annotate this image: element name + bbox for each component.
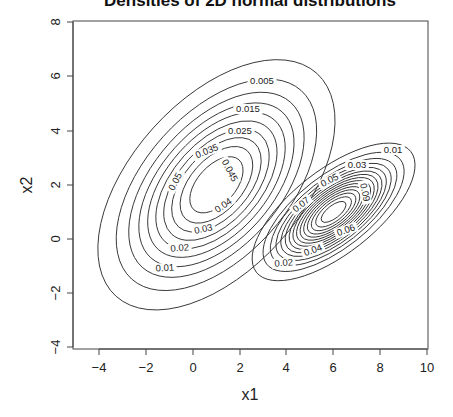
contour-lines: [53, 16, 437, 353]
contour-label: 0.045: [220, 157, 241, 183]
x-tick-label: 10: [420, 360, 434, 375]
contour-label: 0.02: [170, 241, 189, 254]
contour-line: [230, 118, 436, 305]
contour-label: 0.015: [236, 103, 260, 114]
plot-frame: [73, 21, 428, 349]
contour-label: 0.03: [193, 221, 213, 236]
y-axis-title: x2: [18, 176, 35, 193]
y-tick-label: −2: [48, 286, 63, 301]
x-tick-label: 0: [189, 360, 196, 375]
contour-line: [244, 131, 423, 293]
contour-label: 0.06: [335, 221, 356, 238]
chart-title: Densities of 2D normal distributions: [104, 0, 396, 10]
contour-label: 0.04: [302, 241, 323, 258]
x-tick-label: 6: [329, 360, 336, 375]
y-tick-label: 4: [48, 127, 63, 134]
x-tick-label: 2: [236, 360, 243, 375]
contour-line: [144, 110, 289, 260]
contour-label: 0.025: [228, 125, 252, 136]
x-axis-title: x1: [242, 386, 259, 403]
y-tick-label: 8: [48, 18, 63, 25]
y-tick-label: 2: [48, 181, 63, 188]
contour-chart: Densities of 2D normal distributions 0.0…: [0, 0, 453, 417]
x-tick-label: 8: [376, 360, 383, 375]
contour-label: 0.01: [384, 144, 403, 155]
contour-line: [78, 43, 354, 328]
x-tick-label: 4: [282, 360, 289, 375]
y-tick-label: 0: [48, 235, 63, 242]
x-tick-label: −2: [139, 360, 154, 375]
contour-label: 0.01: [155, 262, 174, 274]
y-tick-label: 6: [48, 72, 63, 79]
y-tick-label: −4: [48, 340, 63, 355]
x-tick-label: −4: [92, 360, 107, 375]
contour-line: [95, 60, 337, 309]
x-axis: −4 −2 0 2 4 6 8 10 x1: [92, 349, 435, 403]
contour-label: 0.02: [274, 256, 293, 269]
contour-label: 0.03: [348, 159, 367, 170]
contour-label: 0.09: [358, 182, 373, 202]
contour-line: [133, 99, 300, 271]
contour-label: 0.005: [250, 75, 274, 86]
y-axis: −4 −2 0 2 4 6 8 x2: [18, 18, 73, 354]
contour-line: [318, 198, 349, 227]
contour-label: 0.035: [194, 141, 220, 160]
